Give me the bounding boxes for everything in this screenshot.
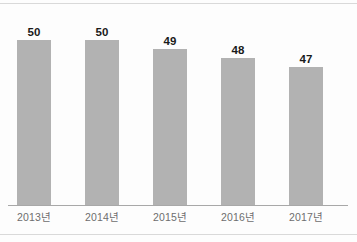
frame-line-bottom [0, 234, 357, 235]
bar-slot-2017: 47 [272, 0, 340, 206]
x-axis-tick-label-2014: 2014년 [68, 209, 136, 224]
x-axis-line [8, 205, 348, 206]
x-axis-tick-label-2015: 2015년 [136, 209, 204, 224]
bar-chart-figure: 50 50 49 48 47 2013년 2014년 2015년 2016년 2… [0, 0, 357, 242]
bar-slot-2015: 49 [136, 0, 204, 206]
bar-2013[interactable] [17, 40, 51, 206]
bar-slot-2016: 48 [204, 0, 272, 206]
bar-value-label: 50 [68, 26, 136, 38]
bar-2015[interactable] [153, 49, 187, 206]
bar-2017[interactable] [289, 67, 323, 206]
x-axis-tick-label-2017: 2017년 [272, 209, 340, 224]
bar-value-label: 47 [272, 53, 340, 65]
bar-value-label: 48 [204, 44, 272, 56]
bar-value-label: 49 [136, 35, 204, 47]
bar-2014[interactable] [85, 40, 119, 206]
x-axis-tick-label-2016: 2016년 [204, 209, 272, 224]
plot-area: 50 50 49 48 47 [0, 0, 357, 206]
bar-2016[interactable] [221, 58, 255, 206]
bar-value-label: 50 [0, 26, 68, 38]
bar-slot-2014: 50 [68, 0, 136, 206]
bar-slot-2013: 50 [0, 0, 68, 206]
x-axis-category-labels: 2013년 2014년 2015년 2016년 2017년 [0, 209, 357, 229]
x-axis-tick-label-2013: 2013년 [0, 209, 68, 224]
